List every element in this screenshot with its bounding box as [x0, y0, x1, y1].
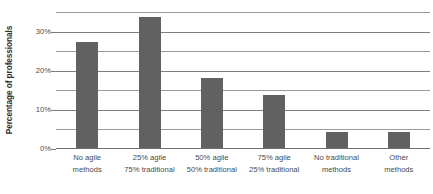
bar — [326, 132, 348, 148]
y-axis-tick-label: 20% — [36, 67, 51, 75]
y-axis-tick-label: 0% — [40, 145, 51, 153]
bar — [201, 78, 223, 148]
x-axis-tick-label: Othermethods — [368, 152, 430, 175]
x-axis-tick-label-line1: No traditional — [314, 153, 359, 162]
x-axis-tick-label-line2: methods — [368, 164, 430, 176]
x-axis-tick-label: 25% agile75% traditional — [118, 152, 180, 175]
x-axis-tick-label: No traditionalmethods — [305, 152, 367, 175]
x-axis-tick-label-line1: 75% agile — [257, 153, 290, 162]
y-axis-title: Percentage of professionals — [0, 0, 18, 160]
x-axis-tick-label: 75% agile25% traditional — [243, 152, 305, 175]
bars-layer — [56, 12, 430, 149]
x-axis-tick-label-line2: 75% traditional — [118, 164, 180, 176]
y-axis-tick-label: 30% — [36, 28, 51, 36]
x-axis-tick-label: 50% agile50% traditional — [181, 152, 243, 175]
x-axis-tick-labels: No agilemethods25% agile75% traditional5… — [56, 152, 430, 194]
x-axis-tick-label-line1: No agile — [73, 153, 101, 162]
y-axis-tick-label: 10% — [36, 106, 51, 114]
x-axis-tick-label-line1: 25% agile — [133, 153, 166, 162]
y-axis-tick-mark — [51, 149, 56, 150]
x-axis-tick-label-line2: 50% traditional — [181, 164, 243, 176]
x-axis-tick-label-line1: 50% agile — [195, 153, 228, 162]
y-axis-tick-labels: 0%10%20%30% — [18, 0, 54, 194]
x-axis-tick-label: No agilemethods — [56, 152, 118, 175]
bar-chart: Percentage of professionals 0%10%20%30% … — [0, 0, 433, 194]
x-axis-tick-label-line2: 25% traditional — [243, 164, 305, 176]
bar — [139, 17, 161, 148]
bar — [76, 42, 98, 148]
x-axis-tick-label-line1: Other — [389, 153, 408, 162]
bar — [263, 95, 285, 148]
bar — [388, 132, 410, 148]
plot-area — [56, 12, 430, 149]
x-axis-tick-label-line2: methods — [305, 164, 367, 176]
x-axis-line — [56, 148, 430, 149]
x-axis-tick-label-line2: methods — [56, 164, 118, 176]
y-axis-title-text: Percentage of professionals — [4, 26, 14, 134]
